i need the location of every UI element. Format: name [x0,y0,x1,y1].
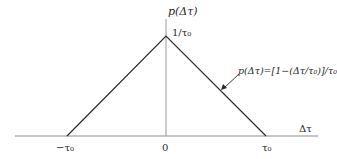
x-tick-zero: 0 [162,143,168,153]
arrowhead-icon [221,84,227,90]
formula-label: p(Δτ)=[1−(Δτ/τ₀)]/τ₀ [238,66,337,76]
peak-label: 1/τ₀ [172,28,191,38]
x-tick-neg-tau0: −τ₀ [56,143,74,153]
x-tick-tau0: τ₀ [262,143,272,153]
x-axis-label: Δτ [299,124,312,134]
annotation-arrow-line [224,74,239,88]
y-axis-label: p(Δτ) [168,6,198,17]
